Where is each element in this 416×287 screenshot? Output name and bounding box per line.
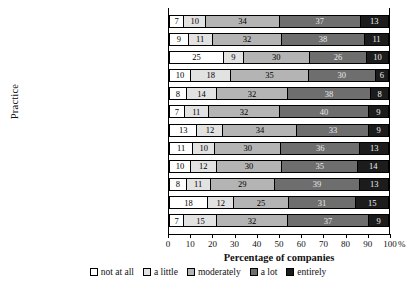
bar-segment: 25 bbox=[234, 196, 288, 209]
bar-segment: 35 bbox=[231, 69, 309, 82]
bar-segment: 11 bbox=[365, 33, 389, 46]
bar-segment: 13 bbox=[361, 15, 389, 28]
bar-segment: 11 bbox=[185, 105, 209, 118]
bar-segment: 11 bbox=[169, 142, 193, 155]
bar-row: 710343713 bbox=[169, 15, 389, 28]
bar-row: 1012303514 bbox=[169, 160, 389, 173]
x-axis-tick bbox=[368, 234, 369, 238]
x-axis-tick bbox=[257, 234, 258, 238]
legend-swatch-icon bbox=[143, 268, 151, 276]
bar-segment: 33 bbox=[297, 124, 369, 137]
bar-segment: 38 bbox=[288, 87, 372, 100]
y-axis-title: Practice bbox=[9, 62, 20, 142]
bar-segment: 18 bbox=[191, 69, 231, 82]
bar-segment: 12 bbox=[191, 160, 217, 173]
x-axis-tick bbox=[323, 234, 324, 238]
legend-item[interactable]: entirely bbox=[286, 267, 326, 277]
bar-segment: 34 bbox=[206, 15, 280, 28]
bar-segment: 14 bbox=[358, 160, 388, 173]
bar-segment: 7 bbox=[169, 105, 185, 118]
bar-row: 71132409 bbox=[169, 105, 389, 118]
legend: not at alla littlemoderatelya lotentirel… bbox=[0, 267, 416, 277]
bar-segment: 31 bbox=[289, 196, 357, 209]
bar-segment: 36 bbox=[281, 142, 360, 155]
bar-segment: 11 bbox=[189, 33, 213, 46]
bar-segment: 29 bbox=[211, 178, 275, 191]
bar-segment: 34 bbox=[223, 124, 297, 137]
bar-segment: 9 bbox=[369, 105, 389, 118]
bar-segment: 40 bbox=[280, 105, 369, 118]
bar-segment: 32 bbox=[209, 105, 280, 118]
bar-row: 81432388 bbox=[169, 87, 389, 100]
bar-segment: 12 bbox=[208, 196, 234, 209]
legend-label: entirely bbox=[297, 267, 326, 277]
legend-label: a little bbox=[154, 267, 178, 277]
bar-segment: 13 bbox=[169, 124, 197, 137]
stacked-bar-chart: Practice 7103437139113238112593026101018… bbox=[0, 0, 416, 287]
x-axis-tick bbox=[279, 234, 280, 238]
x-axis-tick bbox=[346, 234, 347, 238]
legend-label: a lot bbox=[261, 267, 278, 277]
bar-segment: 9 bbox=[224, 51, 244, 64]
x-axis-tick bbox=[190, 234, 191, 238]
bar-segment: 9 bbox=[169, 33, 189, 46]
bar-segment: 39 bbox=[275, 178, 361, 191]
bar-segment: 37 bbox=[288, 214, 369, 227]
bar-segment: 38 bbox=[282, 33, 365, 46]
plot-area: 7103437139113238112593026101018353068143… bbox=[168, 8, 390, 234]
legend-swatch-icon bbox=[90, 268, 98, 276]
bar-row: 811293913 bbox=[169, 178, 389, 191]
legend-label: not at all bbox=[101, 267, 134, 277]
bar-row: 911323811 bbox=[169, 33, 389, 46]
bar-segment: 35 bbox=[282, 160, 358, 173]
bar-segment: 25 bbox=[169, 51, 224, 64]
bar-segment: 37 bbox=[280, 15, 361, 28]
bar-row: 1110303613 bbox=[169, 142, 389, 155]
bar-segment: 10 bbox=[169, 160, 191, 173]
legend-swatch-icon bbox=[250, 268, 258, 276]
bar-segment: 18 bbox=[169, 196, 208, 209]
legend-swatch-icon bbox=[286, 268, 294, 276]
bar-segment: 13 bbox=[360, 142, 389, 155]
legend-item[interactable]: not at all bbox=[90, 267, 134, 277]
x-axis-unit: % bbox=[398, 239, 406, 249]
bar-row: 1812253115 bbox=[169, 196, 389, 209]
bar-segment: 30 bbox=[309, 69, 376, 82]
legend-item[interactable]: a lot bbox=[250, 267, 278, 277]
bar-segment: 9 bbox=[369, 214, 389, 227]
x-axis-tick bbox=[168, 234, 169, 238]
bar-row: 131234339 bbox=[169, 124, 389, 137]
bar-segment: 8 bbox=[169, 178, 187, 191]
bar-segment: 8 bbox=[169, 87, 187, 100]
legend-item[interactable]: a little bbox=[143, 267, 178, 277]
bar-row: 259302610 bbox=[169, 51, 389, 64]
bar-segment: 32 bbox=[217, 87, 287, 100]
x-axis-line: 0102030405060708090100 bbox=[168, 234, 390, 235]
bar-segment: 12 bbox=[197, 124, 223, 137]
bar-segment: 30 bbox=[244, 51, 310, 64]
legend-item[interactable]: moderately bbox=[187, 267, 241, 277]
bar-segment: 10 bbox=[184, 15, 206, 28]
bar-segment: 6 bbox=[376, 69, 389, 82]
bar-row: 71532379 bbox=[169, 214, 389, 227]
x-axis-tick bbox=[390, 234, 391, 238]
legend-swatch-icon bbox=[187, 268, 195, 276]
bar-segment: 26 bbox=[310, 51, 367, 64]
bar-segment: 13 bbox=[360, 178, 389, 191]
bar-segment: 15 bbox=[356, 196, 389, 209]
legend-label: moderately bbox=[198, 267, 241, 277]
bar-segment: 10 bbox=[193, 142, 215, 155]
bar-segment: 15 bbox=[184, 214, 217, 227]
bar-segment: 7 bbox=[169, 214, 184, 227]
x-axis-title: Percentage of companies bbox=[168, 252, 390, 263]
x-axis-tick bbox=[235, 234, 236, 238]
bar-segment: 10 bbox=[367, 51, 389, 64]
x-axis-tick bbox=[301, 234, 302, 238]
bar-segment: 30 bbox=[217, 160, 282, 173]
bar-segment: 7 bbox=[169, 15, 184, 28]
bar-segment: 32 bbox=[213, 33, 283, 46]
bar-segment: 8 bbox=[371, 87, 389, 100]
bar-row: 101835306 bbox=[169, 69, 389, 82]
bar-segment: 9 bbox=[369, 124, 389, 137]
bar-segment: 11 bbox=[187, 178, 211, 191]
